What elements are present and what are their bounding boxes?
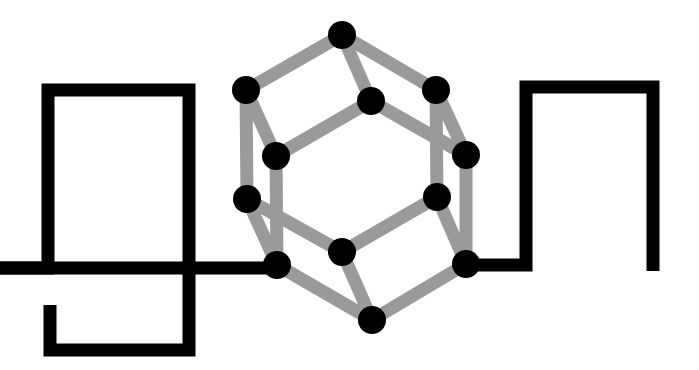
atom-right-lower-inner xyxy=(423,183,451,211)
diagram-canvas: Molecular cage coupled to a wire circuit xyxy=(0,0,699,370)
wire-right-loop xyxy=(466,87,653,271)
bond-top-upper-left xyxy=(246,35,342,90)
wire-left-loop xyxy=(0,90,189,350)
bond-right-lower-junction-bottom xyxy=(372,264,466,320)
bond-upper-right-right-lower-inner xyxy=(436,90,437,197)
atom-upper-right xyxy=(422,76,450,104)
atom-right-lower-junction xyxy=(452,250,480,278)
bond-right-lower-inner-center-lower xyxy=(342,197,437,252)
atom-lower-left-junction xyxy=(263,251,291,279)
atom-top xyxy=(328,21,356,49)
atom-upper-left xyxy=(232,76,260,104)
atom-inner-top xyxy=(357,87,385,115)
atom-left-mid-inner xyxy=(262,142,290,170)
bond-inner-top-left-mid-inner xyxy=(276,101,371,156)
diagram-svg xyxy=(0,0,699,370)
atom-bottom xyxy=(358,306,386,334)
atom-right-mid xyxy=(452,141,480,169)
atom-center-lower xyxy=(328,238,356,266)
atom-left-lower xyxy=(233,185,261,213)
